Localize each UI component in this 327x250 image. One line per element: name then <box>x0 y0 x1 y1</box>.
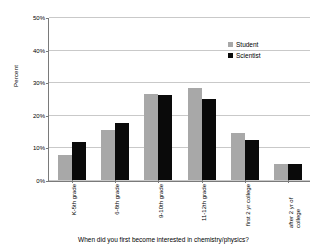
bar-student <box>231 133 245 180</box>
plot-area: 0%10%20%30%40%50% <box>48 18 310 182</box>
x-axis-tick-label: 6-8th grade <box>114 184 121 215</box>
bar-scientist <box>288 164 302 180</box>
x-axis-tick-mark <box>115 180 116 183</box>
chart-caption: When did you first become interested in … <box>0 236 327 243</box>
x-axis-tick-label: first 2 yr college <box>245 184 252 226</box>
bar-group <box>267 18 310 180</box>
y-axis-tick-label: 40% <box>33 48 45 54</box>
bar-student <box>58 155 72 180</box>
legend-label-scientist: Scientist <box>236 52 261 59</box>
bar-scientist <box>245 140 259 181</box>
y-axis-title: Percent <box>13 46 19 106</box>
x-axis-label-cell: 6-8th grade <box>93 184 137 230</box>
y-axis-tick-label: 10% <box>33 145 45 151</box>
y-axis-tick-mark <box>46 116 49 117</box>
x-axis-labels: K-5th grade6-8th grade9-10th grade11-12t… <box>49 184 310 230</box>
bar-student <box>188 88 202 180</box>
y-axis-tick-label: 0% <box>36 178 45 184</box>
bar-scientist <box>72 142 86 180</box>
x-axis-tick-mark <box>245 180 246 183</box>
y-axis-tick-label: 20% <box>33 113 45 119</box>
gridline: 0% <box>49 180 310 181</box>
bar-scientist <box>158 95 172 180</box>
legend-label-student: Student <box>236 41 258 48</box>
x-axis-tick-mark <box>202 180 203 183</box>
legend-item-student: Student <box>228 41 261 48</box>
bar-scientist <box>202 99 216 180</box>
bar-student <box>274 164 288 180</box>
y-axis-tick-label: 50% <box>33 15 45 21</box>
bar-group <box>137 18 180 180</box>
legend-item-scientist: Scientist <box>228 52 261 59</box>
y-axis-tick-mark <box>46 51 49 52</box>
x-axis-tick-mark <box>72 180 73 183</box>
x-axis-tick-label: 9-10th grade <box>158 184 165 218</box>
x-axis-tick-label: 11-12th grade <box>201 184 208 221</box>
x-axis-label-cell: 11-12th grade <box>180 184 224 230</box>
x-axis-tick-label: after 2 yr of college <box>288 184 302 228</box>
y-axis-tick-mark <box>46 18 49 19</box>
legend-swatch-student-icon <box>228 42 233 47</box>
legend-swatch-scientist-icon <box>228 53 233 58</box>
y-axis-tick-label: 30% <box>33 80 45 86</box>
bar-student <box>144 94 158 180</box>
x-axis-label-cell: first 2 yr college <box>223 184 267 230</box>
x-axis-label-cell: 9-10th grade <box>136 184 180 230</box>
x-axis-tick-mark <box>158 180 159 183</box>
y-axis-tick-mark <box>46 83 49 84</box>
bar-student <box>101 130 115 180</box>
y-axis-tick-mark <box>46 148 49 149</box>
x-axis-label-cell: K-5th grade <box>49 184 93 230</box>
x-axis-tick-label: K-5th grade <box>71 184 78 215</box>
x-axis-label-cell: after 2 yr of college <box>267 184 311 230</box>
y-axis-tick-mark <box>46 181 49 182</box>
bar-scientist <box>115 123 129 180</box>
bar-group <box>93 18 136 180</box>
legend: Student Scientist <box>228 41 261 59</box>
bar-group <box>50 18 93 180</box>
bar-chart: Percent 0%10%20%30%40%50% K-5th grade6-8… <box>0 0 327 250</box>
bar-group <box>180 18 223 180</box>
x-axis-tick-mark <box>288 180 289 183</box>
bar-groups <box>50 18 310 180</box>
